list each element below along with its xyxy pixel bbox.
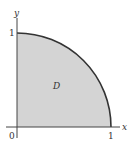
origin-label: 0 <box>9 131 15 141</box>
y-axis-label: y <box>13 8 20 18</box>
region-label: D <box>52 81 60 91</box>
x-axis-label: x <box>122 122 127 132</box>
x-tick-label: 1 <box>108 131 114 141</box>
region-d-fill <box>17 33 111 127</box>
quarter-disk-diagram: y x 1 1 0 D <box>0 0 133 146</box>
y-tick-label: 1 <box>9 28 15 38</box>
